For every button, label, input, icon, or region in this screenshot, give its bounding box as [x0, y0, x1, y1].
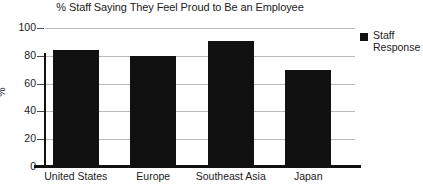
plot-area — [45, 28, 355, 167]
legend-entry-staff-response: Staff Response — [360, 30, 423, 53]
y-axis-tick — [37, 111, 44, 112]
bar — [285, 70, 331, 167]
chart-title: % Staff Saying They Feel Proud to Be an … — [0, 1, 360, 13]
legend-swatch-icon — [360, 33, 368, 41]
y-axis-tick-label: 100 — [10, 22, 36, 33]
y-axis-tick — [37, 56, 44, 57]
legend-label: Staff Response — [373, 30, 421, 53]
y-axis-tick — [37, 84, 44, 85]
y-axis-tick-label: 20 — [10, 133, 36, 144]
y-axis-tick-labels: 100806040200 — [10, 28, 36, 167]
bar — [53, 50, 99, 167]
x-axis-category-label: Japan — [248, 170, 368, 182]
y-axis-tick-label: 60 — [10, 78, 36, 89]
gridline — [45, 28, 355, 29]
y-axis-label: % — [0, 87, 7, 96]
y-axis-tick-label: 40 — [10, 105, 36, 116]
y-axis-tick-label: 80 — [10, 50, 36, 61]
y-axis-tick — [37, 28, 44, 29]
bar — [208, 41, 254, 167]
legend-label-line2: Response — [373, 41, 420, 53]
chart-legend: Staff Response — [360, 30, 423, 53]
legend-label-line1: Staff — [373, 29, 394, 41]
x-axis-line — [34, 165, 361, 168]
y-axis-line — [44, 53, 46, 168]
y-axis-tick — [37, 139, 44, 140]
bar — [130, 56, 176, 167]
bar-chart: % Staff Saying They Feel Proud to Be an … — [0, 0, 423, 194]
